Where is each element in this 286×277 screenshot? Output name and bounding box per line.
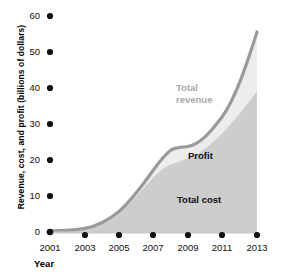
series-label-total-cost: Total cost	[177, 194, 221, 206]
y-tick-dot	[47, 121, 53, 127]
y-tick-dot	[47, 157, 53, 163]
y-tick-dot	[47, 85, 53, 91]
series-label-total-revenue-line1: Total	[176, 82, 198, 93]
x-tick-dot	[150, 232, 156, 238]
x-tick-label-2003: 2003	[68, 242, 102, 253]
x-tick-label-2007: 2007	[136, 242, 170, 253]
y-tick-dot	[47, 13, 53, 19]
series-label-total-revenue: Total revenue	[176, 82, 232, 105]
chart-container: 60 50 40 30 20 10 0 2001 2003 2005 2007 …	[0, 0, 286, 277]
x-tick-label-2009: 2009	[171, 242, 205, 253]
x-axis-title: Year	[34, 258, 54, 269]
x-tick-label-2001: 2001	[33, 242, 67, 253]
x-tick-dot	[82, 232, 88, 238]
x-tick-dot	[185, 232, 191, 238]
x-tick-dot	[116, 232, 122, 238]
series-label-total-revenue-line2: revenue	[176, 94, 212, 105]
x-tick-dot	[254, 232, 260, 238]
x-tick-label-2011: 2011	[205, 242, 239, 253]
y-tick-dot	[47, 49, 53, 55]
series-label-profit: Profit	[188, 150, 213, 162]
x-tick-label-2013: 2013	[240, 242, 274, 253]
y-axis-title: Revenue, cost, and profit (billions of d…	[16, 2, 26, 232]
x-tick-dot	[219, 232, 225, 238]
chart-plot-area	[0, 0, 286, 277]
y-tick-dot	[47, 193, 53, 199]
x-tick-label-2005: 2005	[102, 242, 136, 253]
y-tick-dot	[47, 229, 54, 236]
